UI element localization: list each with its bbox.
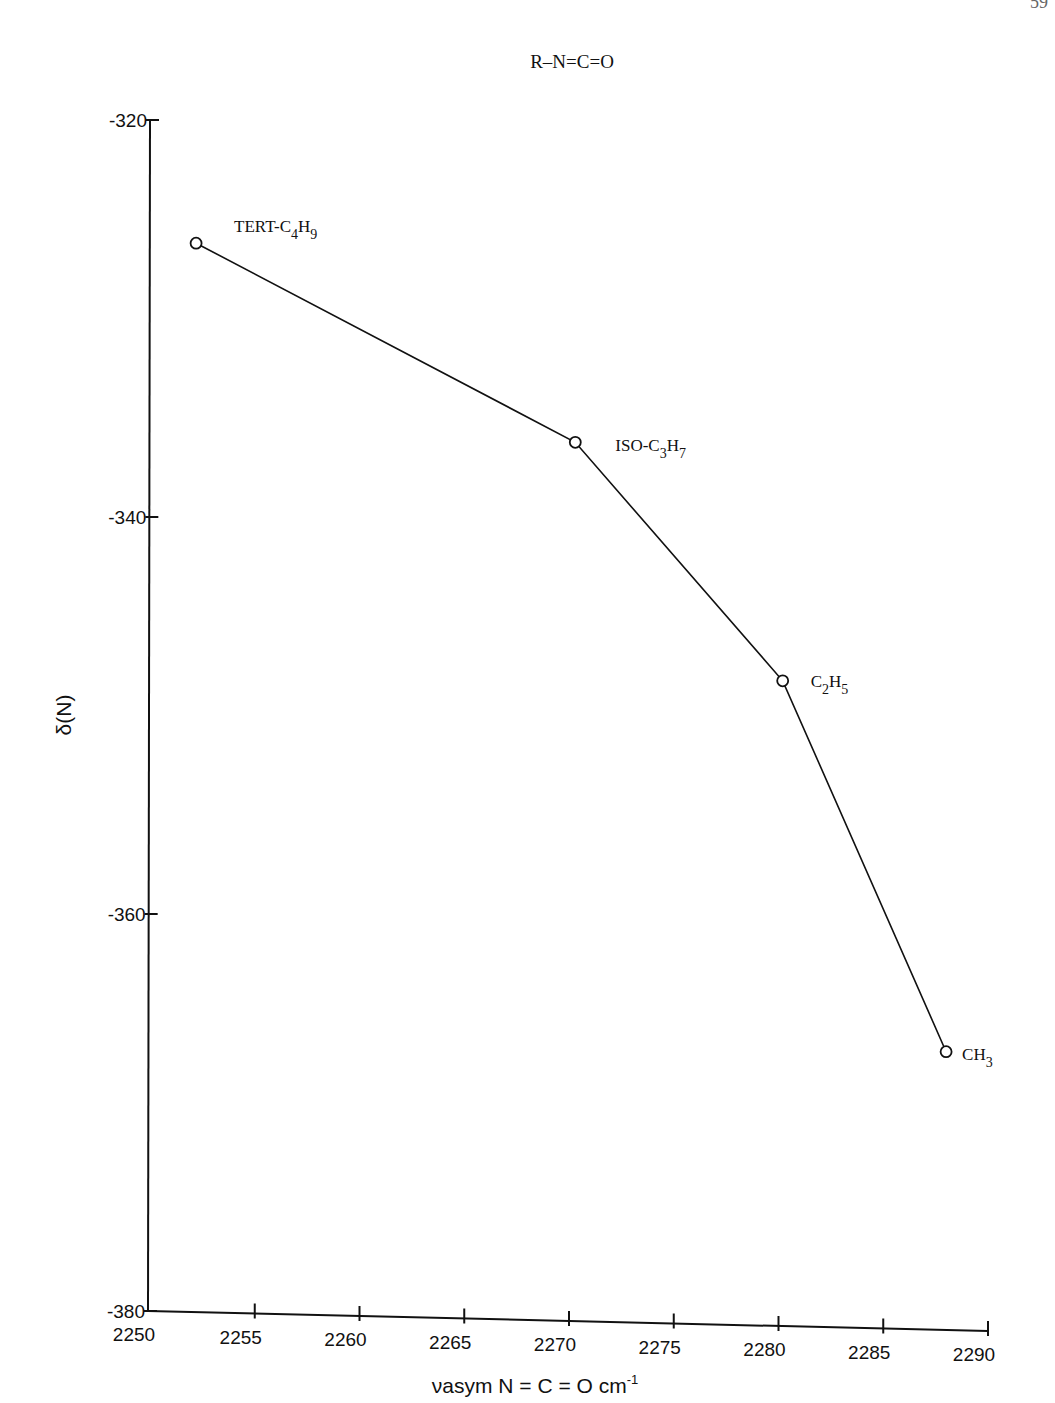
x-tick: 2270 xyxy=(534,1311,576,1355)
x-axis-title: νasym N = C = O cm-1 xyxy=(432,1372,638,1397)
x-tick-label: 2270 xyxy=(534,1334,576,1355)
data-point-marker xyxy=(777,675,788,686)
y-tick-label: -320 xyxy=(109,110,147,131)
data-point-marker xyxy=(941,1046,952,1057)
x-tick: 2250 xyxy=(113,1324,155,1345)
x-axis-title-superscript: -1 xyxy=(627,1372,639,1387)
series-line xyxy=(196,243,946,1052)
x-tick: 2260 xyxy=(324,1306,366,1350)
x-tick: 2280 xyxy=(743,1316,785,1360)
x-tick-label: 2250 xyxy=(113,1324,155,1345)
x-tick: 2275 xyxy=(639,1314,681,1358)
x-tick: 2265 xyxy=(429,1309,471,1353)
data-point-marker xyxy=(191,238,202,249)
x-tick: 2290 xyxy=(953,1321,995,1365)
y-tick: -360 xyxy=(108,904,158,925)
y-tick: -320 xyxy=(109,110,159,131)
data-point-label: C2H5 xyxy=(811,672,849,697)
y-tick-label: -380 xyxy=(107,1301,145,1322)
y-axis-title: δ(N) xyxy=(52,695,75,736)
page-number: 59 xyxy=(1030,0,1048,12)
x-axis-title-main: νasym N = C = O cm xyxy=(432,1374,627,1397)
x-tick-label: 2255 xyxy=(220,1327,262,1348)
y-tick: -340 xyxy=(108,507,158,528)
data-point-marker xyxy=(570,437,581,448)
y-tick-label: -360 xyxy=(108,904,146,925)
data-series: TERT-C4H9ISO-C3H7C2H5CH3 xyxy=(191,217,993,1070)
x-tick-label: 2290 xyxy=(953,1344,995,1365)
data-point-label: ISO-C3H7 xyxy=(615,436,686,461)
x-tick-label: 2275 xyxy=(639,1337,681,1358)
x-tick: 2285 xyxy=(848,1319,890,1363)
y-tick-label: -340 xyxy=(108,507,146,528)
x-tick-label: 2285 xyxy=(848,1342,890,1363)
x-tick-label: 2280 xyxy=(743,1339,785,1360)
x-tick-label: 2260 xyxy=(324,1329,366,1350)
x-tick-label: 2265 xyxy=(429,1332,471,1353)
y-axis: -320-340-360-380 xyxy=(107,110,159,1322)
x-axis: 225022552260226522702275228022852290 xyxy=(113,1304,995,1366)
chart-figure: 59 R–N=C=O -320-340-360-380 225022552260… xyxy=(0,0,1055,1403)
data-point-label: TERT-C4H9 xyxy=(234,217,317,242)
data-point-label: CH3 xyxy=(962,1045,993,1070)
x-tick: 2255 xyxy=(220,1304,262,1348)
chart-title: R–N=C=O xyxy=(530,51,614,72)
